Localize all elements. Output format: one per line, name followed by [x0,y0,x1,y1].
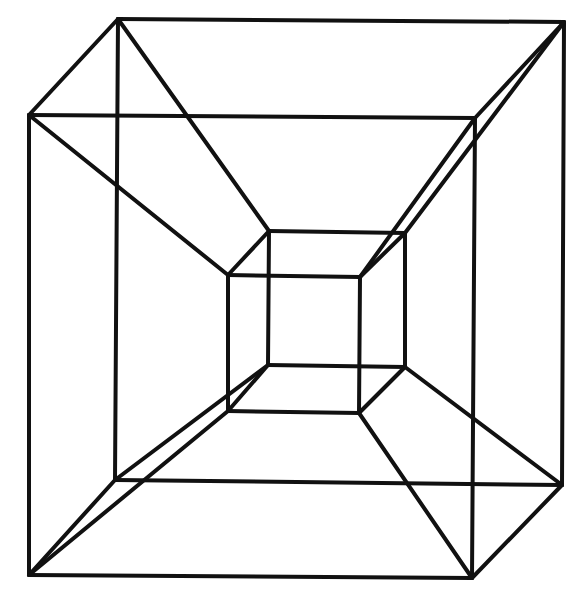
edge-A4-C4 [115,365,268,480]
edge-A3-C3 [405,367,562,485]
edge-A1-C1 [118,19,269,231]
edge-C1-D1 [228,231,269,275]
tesseract-wireframe [0,0,572,591]
edge-D2-D3 [359,277,360,413]
edge-D1-D2 [228,275,360,277]
edge-A3-B3 [472,485,562,578]
edge-C1-C2 [269,231,405,233]
edge-B3-B4 [29,575,472,578]
edge-A2-C2 [405,22,564,233]
edge-B3-D3 [359,413,472,578]
edge-C3-D3 [359,367,405,413]
edge-B4-D4 [29,411,228,575]
edge-D3-D4 [228,411,359,413]
edge-A4-A1 [115,19,118,480]
edge-B1-B2 [29,115,475,118]
edge-B1-D1 [29,115,228,275]
edge-B2-B3 [472,118,475,578]
edge-B2-D2 [360,118,475,277]
edge-A3-A4 [115,480,562,485]
edge-A1-B1 [29,19,118,115]
edge-A2-A3 [562,22,564,485]
tesseract-diagram [0,0,572,591]
edge-A1-A2 [118,19,564,22]
edge-A4-B4 [29,480,115,575]
edge-C3-C4 [268,365,405,367]
edge-C4-C1 [268,231,269,365]
